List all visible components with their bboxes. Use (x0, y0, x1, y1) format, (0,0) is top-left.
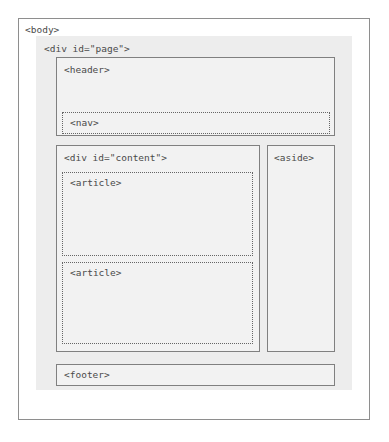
nav-element-label: <nav> (70, 117, 99, 128)
body-element-label: <body> (25, 24, 59, 35)
footer-element-label: <footer> (64, 369, 110, 380)
page-div-label: <div id="page"> (44, 43, 130, 54)
header-element-label: <header> (64, 64, 110, 75)
nav-element-box (62, 112, 330, 134)
article-element-label: <article> (70, 177, 121, 188)
content-div-label: <div id="content"> (64, 152, 167, 163)
aside-element-label: <aside> (274, 152, 314, 163)
diagram-canvas: <body> <div id="page"> <header> <nav> <d… (0, 0, 389, 442)
aside-element-box (267, 145, 335, 352)
article-element-label: <article> (70, 267, 121, 278)
